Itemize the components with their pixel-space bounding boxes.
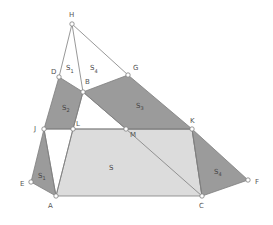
point-m — [124, 127, 128, 131]
label-m: M — [130, 131, 136, 139]
region-s-trapezoid — [56, 129, 202, 196]
point-l — [71, 127, 75, 131]
label-b: B — [85, 78, 90, 86]
label-j: J — [33, 125, 36, 133]
label-f: F — [255, 178, 259, 186]
geometry-diagram: H D B G J L M K E A C F S1 S4 S2 S3 S1 S… — [0, 0, 273, 225]
point-k — [190, 127, 194, 131]
point-g — [126, 73, 130, 77]
point-j — [42, 127, 46, 131]
region-s1-triangle — [31, 129, 56, 196]
label-d: D — [51, 68, 56, 76]
segment-hb — [72, 24, 83, 92]
area-label-s4-top: S4 — [90, 64, 98, 74]
point-f — [246, 178, 250, 182]
point-e — [29, 180, 33, 184]
label-c: C — [199, 202, 204, 210]
point-b — [81, 90, 85, 94]
point-d — [57, 75, 61, 79]
label-l: L — [76, 120, 80, 128]
point-a — [54, 194, 58, 198]
segment-hg — [72, 24, 128, 75]
area-label-s1-top: S1 — [66, 64, 74, 74]
label-e: E — [20, 180, 24, 188]
label-g: G — [133, 64, 138, 72]
label-h: H — [69, 11, 74, 19]
label-a: A — [48, 202, 53, 210]
point-c — [200, 194, 204, 198]
label-k: K — [190, 117, 195, 125]
area-label-s: S — [109, 164, 114, 172]
point-h — [70, 22, 74, 26]
